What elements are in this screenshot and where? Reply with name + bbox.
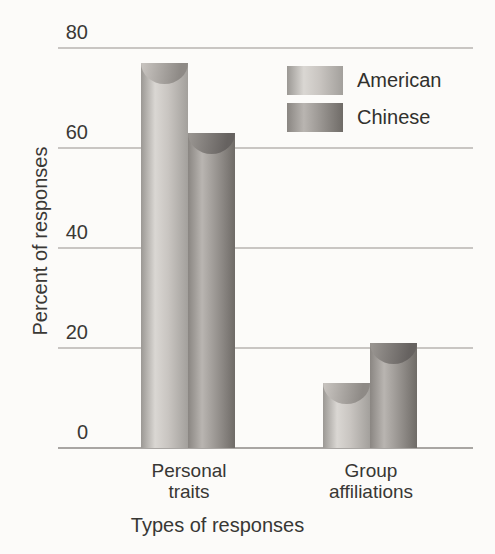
- bar-top-cap: [323, 383, 370, 404]
- legend-swatch-american: [287, 66, 343, 95]
- y-tick-label-0: 0: [38, 421, 88, 443]
- category-label-group-affiliations: Group affiliations: [301, 460, 441, 502]
- y-tick-label-80: 80: [38, 21, 88, 43]
- x-axis-title-text: Types of responses: [131, 514, 304, 536]
- bar-american-group-affiliations: [323, 383, 370, 448]
- bar-chart-figure: 806040200 Personal traitsGroup affiliati…: [0, 0, 495, 554]
- legend-swatch-chinese: [287, 103, 343, 132]
- category-label-personal-traits: Personal traits: [119, 460, 259, 502]
- legend-label-chinese: Chinese: [357, 106, 430, 129]
- gridline-80: [58, 47, 473, 49]
- bar-top-cap: [188, 133, 235, 154]
- bar-chinese-personal-traits: [188, 133, 235, 448]
- y-tick-label-60: 60: [38, 121, 88, 143]
- legend-label-american: American: [357, 69, 441, 92]
- bar-top-cap: [141, 63, 188, 84]
- bar-chinese-group-affiliations: [370, 343, 417, 448]
- gridline-60: [58, 147, 473, 149]
- bar-top-cap: [370, 343, 417, 364]
- x-axis-title: Types of responses: [0, 514, 495, 537]
- bar-american-personal-traits: [141, 63, 188, 448]
- gridline-40: [58, 247, 473, 249]
- y-axis-title: Percent of responses: [29, 147, 52, 336]
